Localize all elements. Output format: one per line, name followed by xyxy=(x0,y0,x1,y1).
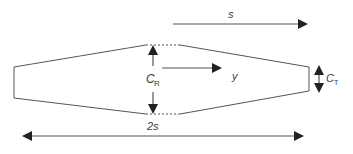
spanwise-y-label: y xyxy=(231,70,239,82)
wing-outline xyxy=(14,45,309,114)
full-span-label: 2s xyxy=(146,120,159,132)
half-span-label: s xyxy=(228,8,234,20)
right-half-outline xyxy=(180,45,309,114)
left-half-outline xyxy=(14,45,146,114)
wing-planform-diagram: s C R y C T 2s xyxy=(0,0,353,154)
tip-chord-subscript: T xyxy=(334,79,339,86)
root-chord-subscript: R xyxy=(154,79,160,88)
tip-chord-label: C xyxy=(326,72,334,84)
